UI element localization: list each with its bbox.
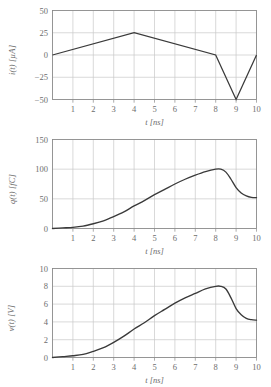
x-tick-label: 1: [71, 233, 75, 243]
x-tick-label: 5: [152, 104, 156, 114]
panel-voltage-xlabel: t [ns]: [145, 375, 164, 385]
y-tick-label: 4: [44, 317, 49, 327]
three-panel-waveform-figure: i(t) [µA] −50−2502550 12345678910 t [ns]…: [0, 0, 271, 387]
y-tick-label: −50: [35, 95, 48, 105]
y-tick-label: 8: [44, 281, 48, 291]
y-tick-label: 6: [44, 299, 48, 309]
x-tick-marks: [73, 229, 257, 232]
x-tick-label: 10: [252, 104, 261, 114]
x-tick-labels: 12345678910: [71, 104, 261, 114]
y-tick-label: 0: [44, 224, 48, 234]
x-tick-label: 4: [132, 233, 137, 243]
x-tick-label: 7: [193, 233, 197, 243]
y-tick-label: 100: [35, 164, 48, 174]
x-tick-label: 1: [71, 362, 75, 372]
panel-current: i(t) [µA] −50−2502550 12345678910 t [ns]: [0, 0, 271, 129]
grid-lines-vertical: [73, 269, 236, 358]
x-tick-label: 3: [112, 233, 116, 243]
grid-lines-vertical: [73, 140, 236, 229]
x-tick-marks: [73, 100, 257, 103]
x-tick-label: 9: [234, 362, 238, 372]
y-tick-label: 2: [44, 335, 48, 345]
x-tick-label: 7: [193, 362, 197, 372]
x-tick-label: 2: [91, 233, 95, 243]
panel-current-xlabel: t [ns]: [145, 117, 164, 127]
panel-voltage-plot: 0246810 12345678910 t [ns]: [0, 258, 271, 387]
x-tick-label: 10: [252, 362, 261, 372]
x-tick-label: 6: [173, 104, 177, 114]
x-tick-label: 10: [252, 233, 261, 243]
panel-current-plot: −50−2502550 12345678910 t [ns]: [0, 0, 271, 129]
x-tick-label: 9: [234, 104, 238, 114]
panel-charge-plot: 050100150 12345678910 t [ns]: [0, 129, 271, 258]
x-tick-label: 3: [112, 104, 116, 114]
x-tick-label: 1: [71, 104, 75, 114]
y-tick-label: −25: [35, 72, 48, 82]
y-tick-label: 25: [40, 28, 49, 38]
y-tick-label: 0: [44, 50, 48, 60]
x-tick-label: 5: [152, 233, 156, 243]
x-tick-marks: [73, 358, 257, 361]
panel-charge-svg: 050100150 12345678910 t [ns]: [0, 129, 271, 258]
x-tick-label: 9: [234, 233, 238, 243]
y-tick-label: 0: [44, 353, 48, 363]
x-tick-label: 3: [112, 362, 116, 372]
x-tick-labels: 12345678910: [71, 233, 261, 243]
y-tick-label: 150: [35, 135, 48, 145]
y-tick-labels: −50−2502550: [35, 6, 48, 105]
y-tick-label: 10: [40, 264, 49, 274]
panel-current-svg: −50−2502550 12345678910 t [ns]: [0, 0, 271, 129]
x-tick-labels: 12345678910: [71, 362, 261, 372]
x-tick-label: 5: [152, 362, 156, 372]
x-tick-label: 2: [91, 362, 95, 372]
x-tick-label: 8: [214, 104, 218, 114]
x-tick-label: 4: [132, 362, 137, 372]
y-tick-labels: 0246810: [40, 264, 49, 363]
x-tick-label: 2: [91, 104, 95, 114]
panel-charge-xlabel: t [ns]: [145, 246, 164, 256]
panel-charge: q(t) [fC] 050100150 12345678910 t [ns]: [0, 129, 271, 258]
y-tick-label: 50: [40, 6, 49, 16]
panel-voltage-svg: 0246810 12345678910 t [ns]: [0, 258, 271, 387]
x-tick-label: 8: [214, 233, 218, 243]
x-tick-label: 6: [173, 362, 177, 372]
y-tick-labels: 050100150: [35, 135, 48, 234]
x-tick-label: 7: [193, 104, 197, 114]
x-tick-label: 4: [132, 104, 137, 114]
x-tick-label: 6: [173, 233, 177, 243]
y-tick-label: 50: [40, 194, 49, 204]
x-tick-label: 8: [214, 362, 218, 372]
panel-voltage: v(t) [V] 0246810 12345678910 t [ns]: [0, 258, 271, 387]
